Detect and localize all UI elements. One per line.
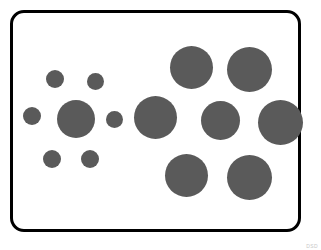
left-inducer-right-circle [106, 111, 123, 128]
right-inducer-top-left-circle [170, 46, 213, 89]
left-inducer-bottom-left-circle [43, 150, 61, 168]
right-inducer-far-right-circle [258, 100, 303, 145]
left-inducer-bottom-right-circle [81, 150, 99, 168]
right-target-circle [134, 96, 177, 139]
watermark-label: DSD [306, 243, 318, 249]
left-target-circle [57, 100, 95, 138]
right-inducer-top-right-circle [227, 47, 272, 92]
stimulus-frame [10, 10, 301, 232]
left-inducer-left-circle [23, 107, 41, 125]
right-inducer-middle-circle [201, 101, 240, 140]
right-inducer-bottom-left-circle [165, 154, 208, 197]
left-inducer-top-left-circle [46, 70, 64, 88]
right-inducer-bottom-right-circle [227, 155, 272, 200]
left-inducer-top-right-circle [87, 73, 104, 90]
figure-canvas: DSD [0, 0, 321, 250]
